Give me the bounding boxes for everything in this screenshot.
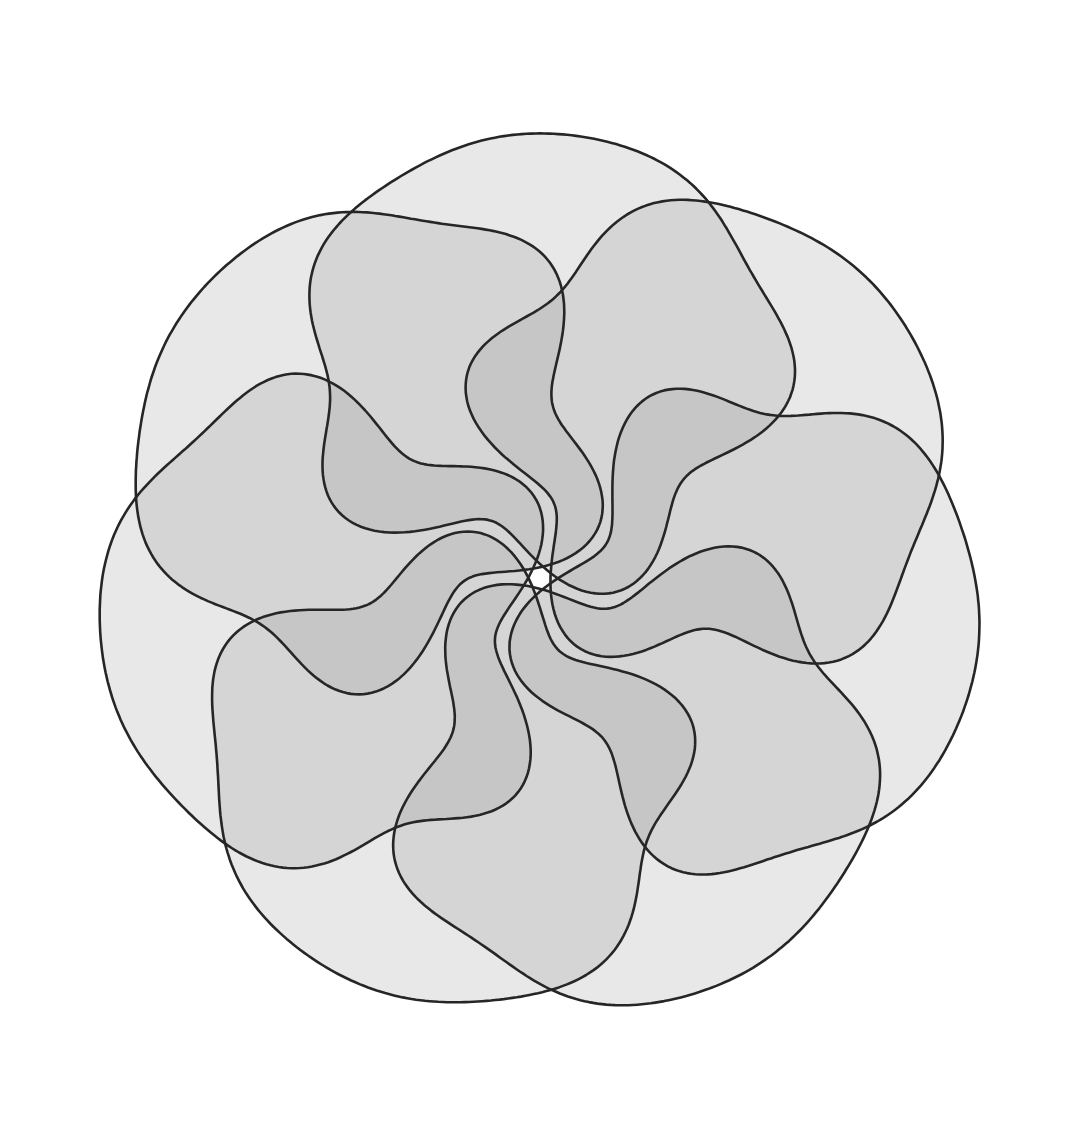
venn-diagram-canvas (0, 0, 1088, 1135)
seven-set-venn-diagram (0, 0, 1088, 1135)
set-fills-layer (100, 133, 980, 1005)
